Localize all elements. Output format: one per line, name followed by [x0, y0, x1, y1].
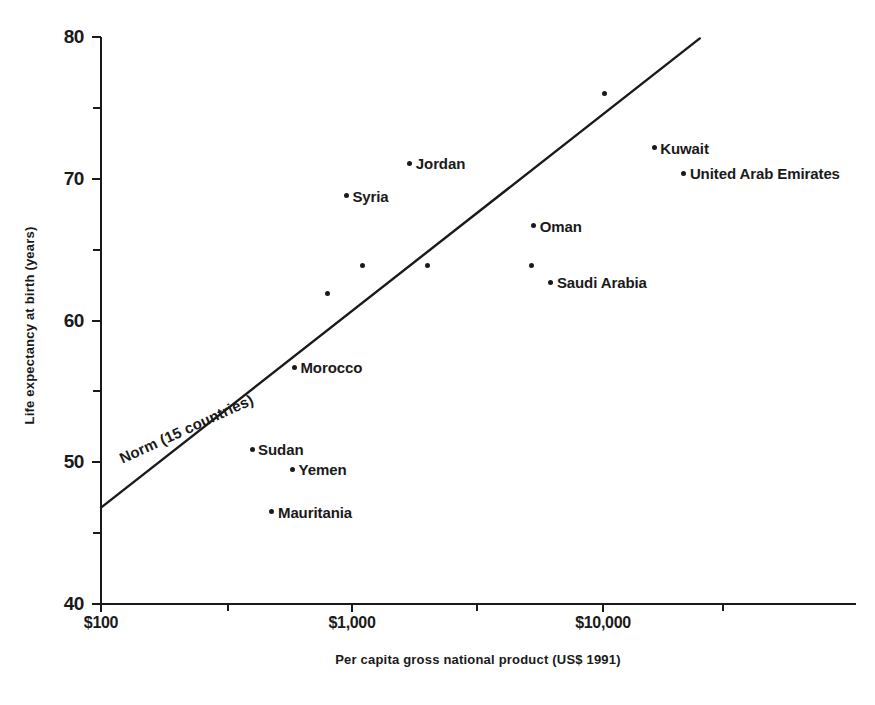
data-point[interactable] — [360, 263, 365, 268]
plot-area: Norm (15 countries) MauritaniaSudanYemen… — [0, 0, 875, 705]
trend-line — [0, 0, 875, 705]
data-point[interactable] — [652, 145, 657, 150]
data-point-label: Oman — [540, 219, 582, 234]
chart-figure: 4050607080 Life expectancy at birth (yea… — [0, 0, 875, 705]
data-point[interactable] — [529, 263, 534, 268]
data-point[interactable] — [292, 365, 297, 370]
data-point[interactable] — [425, 263, 430, 268]
data-point-label: Yemen — [299, 462, 347, 477]
data-point-label: Morocco — [300, 360, 362, 375]
data-point[interactable] — [250, 447, 255, 452]
data-point-label: Mauritania — [278, 505, 352, 520]
data-point-label: Saudi Arabia — [557, 275, 647, 290]
data-point[interactable] — [602, 91, 607, 96]
data-point-label: Jordan — [416, 156, 465, 171]
data-point[interactable] — [290, 467, 295, 472]
data-point-label: United Arab Emirates — [690, 166, 840, 181]
data-point-label: Syria — [352, 189, 388, 204]
data-point-label: Sudan — [258, 442, 303, 457]
data-point-label: Kuwait — [660, 141, 709, 156]
